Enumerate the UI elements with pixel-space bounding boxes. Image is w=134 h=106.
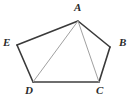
geometry-figure: A B C D E (0, 0, 134, 106)
vertex-label-A: A (74, 2, 81, 13)
vertex-label-B: B (119, 37, 126, 48)
edge-B-C (99, 47, 110, 82)
vertex-label-C: C (96, 85, 103, 96)
edge-D-E (17, 45, 33, 82)
pentagon-diagram-svg (0, 0, 134, 106)
vertex-label-E: E (3, 37, 10, 48)
vertex-label-D: D (25, 85, 33, 96)
